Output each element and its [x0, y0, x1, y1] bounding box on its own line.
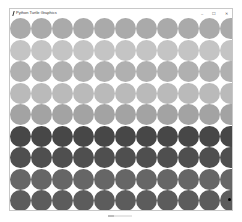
dot-row — [10, 40, 232, 61]
dot — [220, 126, 232, 147]
dot — [157, 104, 178, 125]
dot — [115, 83, 136, 104]
dot — [178, 40, 199, 61]
dot — [31, 104, 52, 125]
dot — [178, 147, 199, 168]
dot — [94, 190, 115, 210]
dot — [73, 18, 94, 39]
dot — [157, 126, 178, 147]
dot — [115, 61, 136, 82]
dot — [52, 126, 73, 147]
taskbar-indicator — [108, 215, 114, 217]
dot — [73, 40, 94, 61]
dot — [178, 83, 199, 104]
dot — [178, 126, 199, 147]
dot — [136, 190, 157, 210]
dot-row — [10, 190, 232, 210]
dot-row — [10, 18, 232, 39]
window-title: Python Turtle Graphics — [16, 9, 57, 17]
dot — [94, 147, 115, 168]
dot — [199, 83, 220, 104]
dot — [199, 61, 220, 82]
turtle-window: Python Turtle Graphics – ☐ ✕ — [9, 8, 233, 211]
dot — [94, 169, 115, 190]
dot — [52, 104, 73, 125]
dot — [73, 126, 94, 147]
dot — [136, 40, 157, 61]
dot-row — [10, 104, 232, 125]
dot — [52, 61, 73, 82]
dot — [220, 40, 232, 61]
dot — [199, 126, 220, 147]
dot — [157, 83, 178, 104]
dot — [115, 104, 136, 125]
dot — [94, 18, 115, 39]
dot — [10, 126, 31, 147]
dot — [73, 190, 94, 210]
turtle-cursor-icon — [228, 198, 231, 201]
maximize-button[interactable]: ☐ — [208, 9, 220, 17]
dot — [157, 61, 178, 82]
dot — [199, 169, 220, 190]
dot-row — [10, 83, 232, 104]
dot — [94, 126, 115, 147]
dot — [10, 40, 31, 61]
dot — [136, 147, 157, 168]
dot — [199, 147, 220, 168]
dot — [52, 147, 73, 168]
dot — [157, 40, 178, 61]
dot — [157, 147, 178, 168]
dot — [31, 40, 52, 61]
dot — [157, 190, 178, 210]
dot — [136, 169, 157, 190]
dot — [52, 18, 73, 39]
dot — [31, 61, 52, 82]
dot-row — [10, 61, 232, 82]
dot — [52, 190, 73, 210]
dot — [73, 147, 94, 168]
taskbar-fragment — [108, 215, 132, 217]
minimize-button[interactable]: – — [196, 9, 208, 17]
dot — [52, 169, 73, 190]
dot — [199, 18, 220, 39]
dot — [136, 18, 157, 39]
dot — [178, 18, 199, 39]
close-button[interactable]: ✕ — [220, 9, 232, 17]
dot — [31, 83, 52, 104]
dot — [73, 83, 94, 104]
dot — [220, 18, 232, 39]
feather-app-icon — [12, 11, 15, 16]
turtle-canvas[interactable] — [10, 17, 232, 210]
dot — [115, 147, 136, 168]
dot — [94, 61, 115, 82]
dot — [178, 190, 199, 210]
dot — [10, 83, 31, 104]
dot — [115, 190, 136, 210]
dot — [52, 40, 73, 61]
dot — [10, 169, 31, 190]
dot-row — [10, 147, 232, 168]
dot — [136, 61, 157, 82]
dot — [115, 126, 136, 147]
dot — [115, 40, 136, 61]
dot — [31, 126, 52, 147]
dot — [31, 147, 52, 168]
dot — [157, 18, 178, 39]
dot — [136, 104, 157, 125]
dot-row — [10, 169, 232, 190]
dot — [10, 18, 31, 39]
dot — [220, 61, 232, 82]
dot — [178, 61, 199, 82]
title-bar[interactable]: Python Turtle Graphics – ☐ ✕ — [10, 9, 232, 17]
dot — [220, 83, 232, 104]
dot — [199, 104, 220, 125]
dot — [178, 169, 199, 190]
window-controls: – ☐ ✕ — [196, 9, 232, 17]
dot — [73, 104, 94, 125]
dot — [10, 104, 31, 125]
dot — [157, 169, 178, 190]
dot — [73, 61, 94, 82]
dot — [220, 147, 232, 168]
dot — [115, 169, 136, 190]
dot — [220, 169, 232, 190]
